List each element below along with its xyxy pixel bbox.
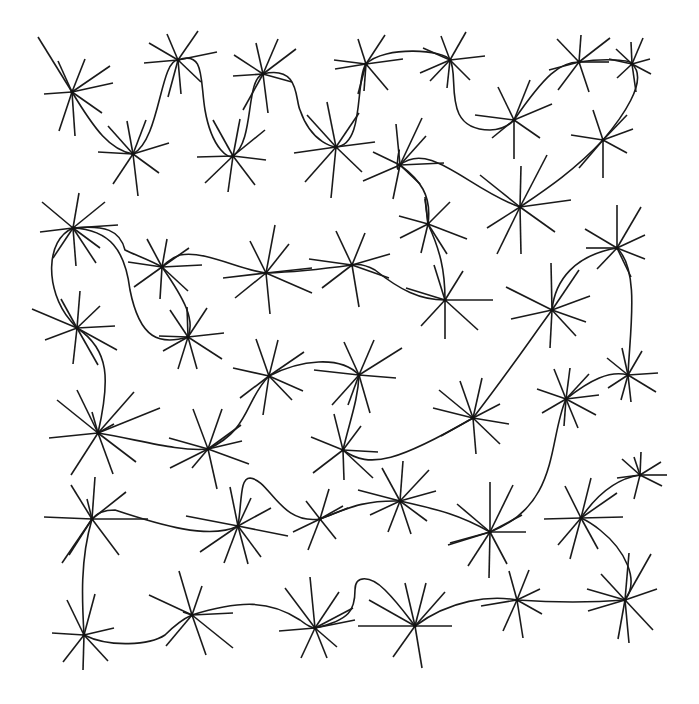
star-ray: [551, 263, 552, 310]
star-center-dot: [90, 517, 94, 521]
star-center-dot: [206, 447, 210, 451]
star-center-dot: [350, 263, 354, 267]
star-center-dot: [264, 271, 268, 275]
star-center-dot: [334, 145, 338, 149]
star-center-dot: [601, 138, 605, 142]
star-ray: [187, 307, 188, 337]
star-center-dot: [550, 308, 554, 312]
star-center-dot: [231, 154, 235, 158]
star-center-dot: [131, 152, 135, 156]
star-center-dot: [623, 598, 627, 602]
star-center-dot: [564, 397, 568, 401]
star-ray: [544, 518, 581, 519]
star-ray: [520, 166, 521, 207]
star-center-dot: [426, 222, 430, 226]
star-center-dot: [443, 298, 447, 302]
star-center-dot: [518, 205, 522, 209]
star-center-dot: [267, 374, 271, 378]
star-center-dot: [471, 416, 475, 420]
star-center-dot: [364, 62, 368, 66]
star-center-dot: [341, 448, 345, 452]
star-ray: [520, 207, 521, 254]
star-center-dot: [96, 431, 100, 435]
star-center-dot: [579, 516, 583, 520]
star-ray: [197, 156, 233, 157]
star-center-dot: [448, 58, 452, 62]
star-center-dot: [398, 163, 402, 167]
star-center-dot: [318, 517, 322, 521]
star-center-dot: [236, 524, 240, 528]
star-center-dot: [261, 72, 265, 76]
star-center-dot: [186, 335, 190, 339]
star-center-dot: [398, 499, 402, 503]
star-path-diagram: [0, 0, 699, 704]
star-center-dot: [160, 265, 164, 269]
star-center-dot: [313, 626, 317, 630]
star-ray: [581, 517, 623, 518]
star-center-dot: [413, 624, 417, 628]
star-ray: [640, 452, 641, 475]
star-center-dot: [630, 62, 634, 66]
star-center-dot: [190, 613, 194, 617]
star-center-dot: [75, 326, 79, 330]
star-ray: [631, 42, 632, 64]
star-center-dot: [71, 226, 75, 230]
star-center-dot: [626, 373, 630, 377]
star-ray: [83, 635, 84, 670]
star-center-dot: [638, 473, 642, 477]
star-center-dot: [357, 373, 361, 377]
star-center-dot: [176, 58, 180, 62]
star-center-dot: [512, 118, 516, 122]
star-center-dot: [70, 90, 74, 94]
star-center-dot: [515, 598, 519, 602]
star-center-dot: [577, 60, 581, 64]
star-center-dot: [82, 633, 86, 637]
star-ray: [159, 336, 188, 337]
background: [0, 0, 699, 704]
star-center-dot: [488, 530, 492, 534]
star-center-dot: [615, 246, 619, 250]
star-ray: [343, 450, 344, 480]
star-ray: [489, 532, 490, 578]
